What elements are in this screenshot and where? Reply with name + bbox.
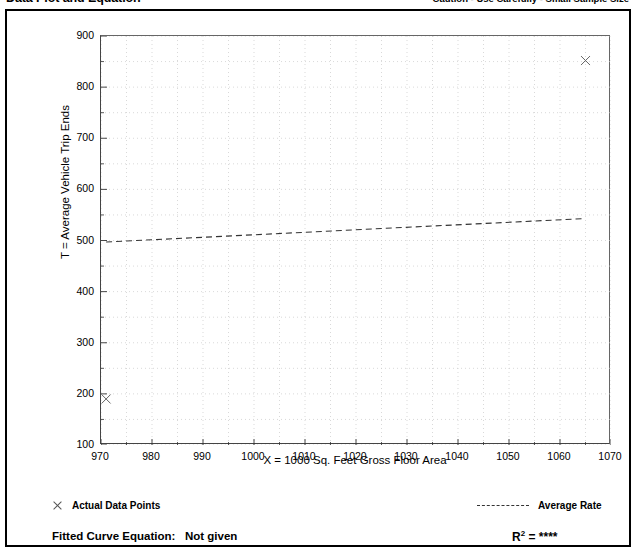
x-tick-label-990: 990 [182,451,222,461]
legend-average-label: Average Rate [538,500,602,511]
x-marker-icon [52,500,63,511]
legend-average-rate: Average Rate [477,500,602,511]
x-tick-label-1060: 1060 [539,451,579,461]
r-squared-label: R [512,530,521,544]
y-tick-label-300: 300 [50,337,94,347]
plot-panel: T = Average Vehicle Trip Ends X = 1000 S… [5,9,631,547]
y-tick-label-900: 900 [50,30,94,40]
x-tick-label-980: 980 [131,451,171,461]
legend-actual-label: Actual Data Points [72,500,160,511]
fitted-curve-equation: Fitted Curve Equation: Not given [52,530,237,542]
chart-plot-area [100,35,610,444]
y-tick-label-500: 500 [50,235,94,245]
chart-canvas [101,36,611,445]
y-tick-label-100: 100 [50,439,94,449]
r-squared-stat: R2 = **** [512,529,558,544]
data-point-marker [581,56,590,65]
y-tick-label-800: 800 [50,81,94,91]
caution-note: Caution - Use Carefully - Small Sample S… [433,0,629,4]
y-tick-label-200: 200 [50,388,94,398]
r-squared-value: **** [539,530,558,544]
x-tick-label-970: 970 [80,451,120,461]
x-tick-label-1000: 1000 [233,451,273,461]
y-tick-label-700: 700 [50,132,94,142]
x-tick-label-1070: 1070 [590,451,630,461]
legend-actual-data-points: Actual Data Points [52,500,160,511]
x-tick-label-1030: 1030 [386,451,426,461]
dashed-line-icon [477,505,529,506]
page-title: Data Plot and Equation [6,0,141,5]
x-tick-label-1050: 1050 [488,451,528,461]
x-tick-label-1010: 1010 [284,451,324,461]
average-rate-line [106,219,585,243]
data-point-marker [102,394,111,403]
y-tick-label-400: 400 [50,286,94,296]
fitted-curve-label: Fitted Curve Equation: [52,530,175,542]
y-axis-label: T = Average Vehicle Trip Ends [59,62,71,302]
r-squared-equals: = [528,530,538,544]
r-squared-exponent: 2 [521,529,525,538]
fitted-curve-value: Not given [185,530,237,542]
x-tick-label-1040: 1040 [437,451,477,461]
x-tick-label-1020: 1020 [335,451,375,461]
y-tick-label-600: 600 [50,183,94,193]
